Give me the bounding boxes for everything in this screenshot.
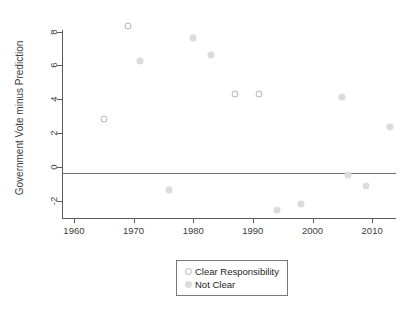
legend: Clear ResponsibilityNot Clear — [176, 260, 288, 296]
filled-circle-icon — [185, 281, 192, 288]
x-tick-label: 1990 — [242, 225, 263, 236]
x-tick-label: 1960 — [63, 225, 84, 236]
data-point — [273, 207, 280, 214]
x-tick-mark — [134, 218, 135, 223]
data-point — [124, 23, 131, 30]
y-axis-title: Government Vote minus Prediction — [14, 18, 26, 218]
x-tick-mark — [193, 218, 194, 223]
x-tick-mark — [253, 218, 254, 223]
legend-marker-icon — [182, 281, 195, 288]
data-point — [255, 91, 262, 98]
data-point — [100, 115, 107, 122]
data-point — [387, 124, 394, 131]
x-tick-mark — [313, 218, 314, 223]
scatter-plot-figure: Government Vote minus Prediction 86420-2… — [0, 0, 408, 309]
legend-marker-icon — [182, 268, 195, 275]
x-axis-line — [62, 218, 396, 219]
data-point — [297, 201, 304, 208]
legend-label: Not Clear — [195, 278, 235, 291]
legend-item: Not Clear — [182, 278, 279, 291]
data-point — [166, 187, 173, 194]
y-tick-label: 6 — [48, 63, 59, 68]
x-tick-label: 1970 — [123, 225, 144, 236]
open-circle-icon — [185, 268, 192, 275]
x-tick-label: 1980 — [183, 225, 204, 236]
data-point — [136, 58, 143, 65]
legend-label: Clear Responsibility — [195, 265, 279, 278]
x-tick-mark — [74, 218, 75, 223]
data-point — [208, 52, 215, 59]
plot-area: 86420-2 196019701980199020002010 — [62, 18, 396, 218]
data-point — [339, 93, 346, 100]
data-point — [231, 91, 238, 98]
y-tick-label: 8 — [48, 29, 59, 34]
data-point — [345, 171, 352, 178]
x-tick-label: 2000 — [302, 225, 323, 236]
x-tick-label: 2010 — [362, 225, 383, 236]
data-point — [190, 35, 197, 42]
y-axis-line — [62, 30, 63, 218]
data-point — [363, 182, 370, 189]
legend-item: Clear Responsibility — [182, 265, 279, 278]
y-tick-label: 2 — [48, 131, 59, 136]
x-tick-mark — [372, 218, 373, 223]
y-tick-label: 4 — [48, 97, 59, 102]
y-tick-label: 0 — [48, 164, 59, 169]
y-tick-label: -2 — [48, 197, 59, 205]
